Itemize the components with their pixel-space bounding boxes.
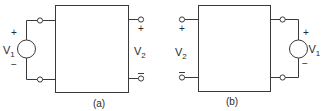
source-minus-label: − [11, 59, 17, 70]
terminal-icon [37, 18, 42, 23]
source-minus-label: − [302, 58, 308, 69]
two-port-box-b [199, 6, 271, 92]
output-voltage-label: V2 [175, 46, 187, 61]
output-voltage-label: V2 [134, 45, 146, 60]
terminal-icon [179, 17, 184, 22]
terminal-icon [280, 75, 285, 80]
caption-a: (a) [93, 98, 105, 109]
caption-b: (b) [226, 96, 238, 107]
terminal-icon [138, 76, 143, 81]
terminal-icon [37, 77, 42, 82]
source-voltage-label: V1 [309, 43, 321, 58]
terminal-icon [179, 75, 184, 80]
labels-a: + V1 − + V2 (a) [3, 23, 146, 109]
output-plus-label: + [138, 23, 144, 34]
terminal-icon [280, 17, 285, 22]
source-plus-label: + [11, 27, 17, 38]
output-plus-label: + [179, 23, 185, 34]
source-voltage-label: V1 [3, 44, 15, 59]
two-port-network-diagram: + V1 − + V2 (a) + V2 + V1 − (b) [0, 0, 332, 111]
source-plus-label: + [303, 27, 309, 38]
panel-b [179, 6, 307, 92]
panel-a [18, 6, 144, 93]
voltage-source-icon [18, 40, 36, 58]
terminal-icon [138, 17, 143, 22]
voltage-source-icon [290, 40, 308, 58]
two-port-box-a [56, 6, 129, 93]
